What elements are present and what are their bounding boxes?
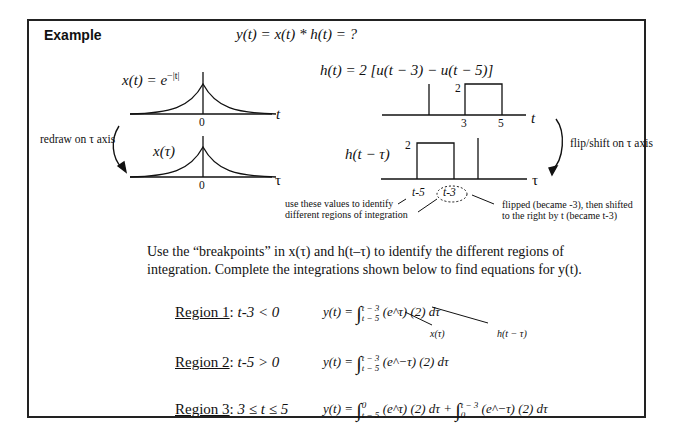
x-t-exponent: −|t|	[167, 70, 179, 81]
instructions: Use the “breakpoints” in x(τ) and h(t–τ)…	[147, 243, 582, 279]
h-flip-label: h(t − τ)	[345, 146, 390, 162]
region-1-lower: t − 5	[362, 313, 380, 323]
region-3-condition: 3 ≤ t ≤ 5	[238, 401, 289, 417]
h-t-tick-5: 5	[498, 117, 504, 129]
region-3-equation: y(t) = ∫0t − 5 (e^τ) (2) dτ + ∫t − 30 (e…	[323, 399, 548, 422]
region-2-label: Region 2: t-5 > 0	[175, 354, 279, 371]
region-2-condition: t-5 > 0	[238, 354, 280, 370]
h-flip-axis-label: τ	[532, 172, 538, 189]
x-tau-origin-tick: 0	[199, 179, 205, 191]
region-3-label: Region 3: 3 ≤ t ≤ 5	[175, 401, 288, 418]
flip-shift-arrow	[549, 119, 562, 175]
region-3-lower-2: 0	[461, 410, 466, 420]
region-3-upper-2: t − 3	[461, 400, 479, 410]
x-tau-plot	[130, 136, 276, 177]
redraw-annotation: redraw on τ axis	[40, 133, 115, 145]
note-x-tau: x(τ)	[430, 328, 445, 339]
region-1-integrand: (e^τ) (2) dτ	[383, 304, 440, 319]
region-3-lower-1: t − 5	[362, 410, 380, 420]
region-2-upper: t − 3	[362, 353, 380, 363]
example-title: Example	[44, 27, 102, 43]
h-t-height-label: 2	[455, 82, 461, 94]
region-2-integrand: (e^−τ) (2) dτ	[383, 354, 449, 369]
h-flip-pulse	[417, 143, 454, 179]
note-h-t-tau: h(t − τ)	[497, 328, 527, 339]
region-2-equation: y(t) = ∫t − 3t − 5 (e^−τ) (2) dτ	[323, 352, 449, 375]
flipped-annotation: flipped (became -3), then shifted to the…	[502, 199, 633, 221]
region-1-upper: t − 3	[362, 303, 380, 313]
x-tau-axis-label: τ	[275, 172, 281, 189]
h-flip-tick-right: t-3	[443, 186, 456, 198]
x-t-origin-tick: 0	[199, 116, 205, 128]
h-flip-plot	[381, 138, 527, 179]
use-values-annotation: use these values to identify different r…	[285, 198, 408, 220]
h-t-plot	[382, 84, 526, 115]
main-equation: y(t) = x(t) * h(t) = ?	[236, 26, 357, 42]
h-flip-tick-left: t-5	[412, 186, 425, 198]
h-t-label: h(t) = 2 [u(t − 3) − u(t − 5)]	[320, 62, 493, 78]
region-1-condition: t-3 < 0	[238, 304, 280, 320]
h-t-axis-label: t	[531, 110, 535, 126]
x-t-label: x(t) = e−|t|	[122, 70, 180, 89]
flip-shift-annotation: flip/shift on τ axis	[570, 137, 653, 149]
region-1-equation: y(t) = ∫t − 3t − 5 (e^τ) (2) dτ	[323, 302, 440, 325]
region-1-label: Region 1: t-3 < 0	[175, 304, 279, 321]
h-t-pulse	[465, 84, 502, 115]
region-2-lower: t − 5	[362, 363, 380, 373]
region-3-upper-1: 0	[362, 400, 367, 410]
region-3-integrand-2: (e^−τ) (2) dτ	[482, 401, 548, 416]
h-flip-height-label: 2	[405, 139, 411, 151]
region-3-integrand-1: (e^τ) (2) dτ +	[383, 401, 452, 416]
x-t-axis-label: t	[276, 106, 280, 122]
x-tau-label: x(τ)	[153, 143, 175, 159]
h-t-tick-3: 3	[461, 117, 467, 129]
